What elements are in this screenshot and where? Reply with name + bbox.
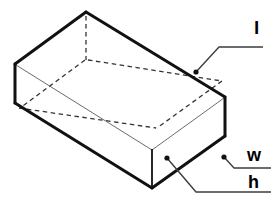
- leader-width-dot: [221, 154, 226, 159]
- edge-bottom-front-left: [15, 103, 152, 188]
- hidden-edge-back-to-right: [88, 60, 222, 81]
- leader-height-dot: [164, 155, 169, 160]
- leader-length-group: [193, 47, 263, 75]
- dimension-label-height: h: [248, 173, 259, 191]
- edge-top-back-right: [86, 12, 225, 97]
- prism-diagram: l w h: [0, 0, 273, 205]
- dimension-label-length: l: [254, 18, 259, 37]
- edge-top-back-left: [15, 12, 86, 64]
- edge-bottom-front-right: [152, 136, 225, 188]
- dimension-label-width: w: [247, 146, 261, 164]
- leader-length-dot: [193, 69, 198, 74]
- visible-edges-group: [15, 12, 225, 188]
- prism-drawing: [0, 0, 273, 205]
- hidden-edges-group: [20, 16, 222, 108]
- leader-length-line: [196, 47, 263, 72]
- thin-edge-top-left-to-front: [16, 65, 152, 150]
- hidden-edge-back-to-left: [20, 60, 85, 108]
